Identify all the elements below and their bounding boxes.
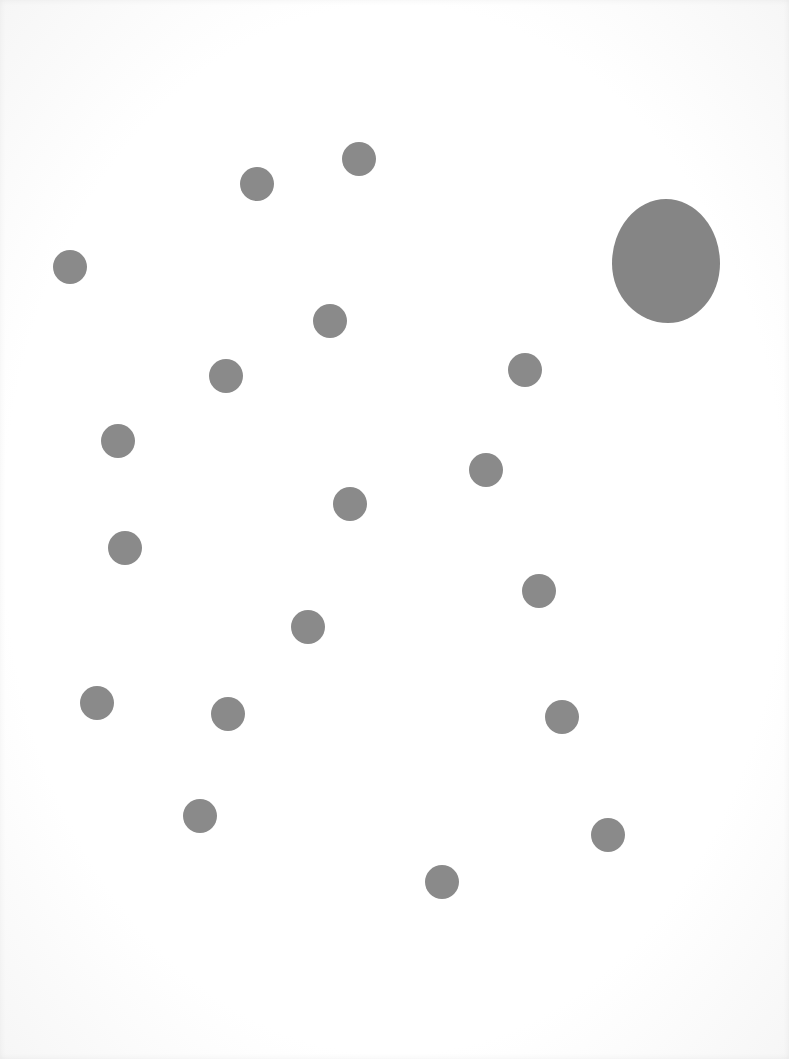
dot [522,574,556,608]
dot [545,700,579,734]
dot [333,487,367,521]
dot [508,353,542,387]
dot [342,142,376,176]
dot [211,697,245,731]
dot [108,531,142,565]
large-oval-dot [612,199,720,323]
dot [313,304,347,338]
paper-sheet [0,0,789,1059]
dot [183,799,217,833]
dot [240,167,274,201]
dot [209,359,243,393]
dot [53,250,87,284]
dot [291,610,325,644]
dot [101,424,135,458]
dot [469,453,503,487]
dot [80,686,114,720]
dot [425,865,459,899]
dot [591,818,625,852]
